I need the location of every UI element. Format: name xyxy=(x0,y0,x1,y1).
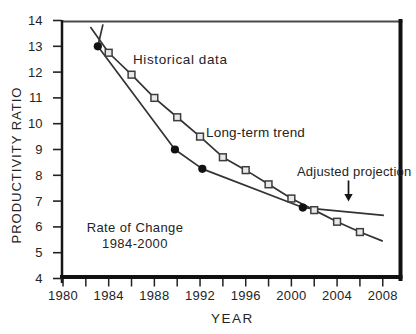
x-tick-label: 2004 xyxy=(322,288,352,303)
circle-marker xyxy=(299,203,307,211)
y-tick-label: 11 xyxy=(29,90,43,105)
y-tick-label: 6 xyxy=(35,219,42,234)
x-axis-title: YEAR xyxy=(211,311,254,326)
square-marker xyxy=(197,133,204,140)
x-tick-label: 1996 xyxy=(231,288,261,303)
square-marker xyxy=(288,195,295,202)
long-term-trend-label: Long-term trend xyxy=(206,125,305,140)
y-tick-label: 7 xyxy=(35,194,42,209)
x-tick-label: 1988 xyxy=(139,288,169,303)
rate-of-change-line1: Rate of Change xyxy=(80,220,190,236)
y-tick-label: 12 xyxy=(28,65,42,80)
historical-data-label: Historical data xyxy=(133,52,228,67)
x-tick-label: 1992 xyxy=(185,288,215,303)
square-marker xyxy=(242,167,249,174)
circle-marker xyxy=(94,42,102,50)
x-tick-label: 1980 xyxy=(48,288,78,303)
circle-marker xyxy=(171,145,179,153)
y-tick-label: 4 xyxy=(35,271,42,286)
square-marker xyxy=(128,71,135,78)
square-marker xyxy=(311,207,318,214)
circle-marker xyxy=(198,165,206,173)
rate-of-change-line2: 1984-2000 xyxy=(80,236,190,252)
y-tick-label: 10 xyxy=(28,116,42,131)
square-marker xyxy=(151,95,158,102)
x-tick-label: 1984 xyxy=(94,288,124,303)
x-tick-label: 2000 xyxy=(276,288,306,303)
square-marker xyxy=(174,114,181,121)
square-marker xyxy=(219,154,226,161)
x-tick-label: 2008 xyxy=(368,288,398,303)
adjusted-projection-label: Adjusted projection xyxy=(297,164,411,179)
square-marker xyxy=(357,229,364,236)
y-axis-title: PRODUCTIVITY RATIO xyxy=(9,87,24,244)
y-tick-label: 14 xyxy=(28,13,42,28)
y-tick-label: 5 xyxy=(35,245,42,260)
rate-of-change-note: Rate of Change 1984-2000 xyxy=(80,220,190,252)
square-marker xyxy=(265,181,272,188)
y-tick-label: 9 xyxy=(35,142,42,157)
y-tick-label: 8 xyxy=(35,168,42,183)
projection-arrow-head xyxy=(344,194,352,202)
y-tick-label: 13 xyxy=(28,39,42,54)
square-marker xyxy=(334,218,341,225)
chart-figure: 1980198419881992199620002004200845678910… xyxy=(0,0,416,334)
square-marker xyxy=(105,49,112,56)
